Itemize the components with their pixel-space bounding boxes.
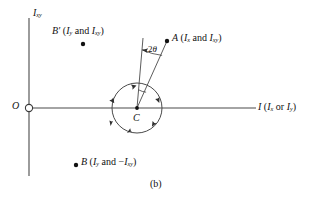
point-b-prime-label: B′ (Iy and Ixy): [52, 26, 104, 37]
point-a-term1-sub: x: [187, 36, 190, 43]
figure-caption-text: (b): [150, 178, 162, 189]
point-a-name: A: [172, 32, 178, 43]
axis-label-term1-sub: x: [271, 105, 274, 112]
axis-label-horizontal: I (Ix or Iy): [258, 102, 296, 113]
point-b-conjunction: and: [102, 156, 116, 167]
point-a-label: A (Ix and Ixy): [172, 33, 222, 44]
rotation-arrowheads-icon: [109, 84, 159, 133]
point-a-conjunction: and: [193, 32, 207, 43]
point-b-label: B (Iy and −Ixy): [81, 157, 136, 168]
point-b-prime-paren-close: ): [101, 25, 104, 36]
axis-label-vertical: Ixy: [33, 8, 42, 19]
center-c-marker: [135, 106, 139, 110]
point-b-term1-sub: y: [96, 160, 99, 167]
origin-label-text: O: [12, 100, 19, 111]
point-b-prime-name: B′: [52, 25, 60, 36]
point-a-paren-close: ): [218, 32, 221, 43]
axis-label-horizontal-main: I: [258, 101, 261, 112]
point-b-paren-close: ): [133, 156, 136, 167]
figure-container: Ixy I (Ix or Iy) O A (Ix and Ixy) B′ (Iy…: [0, 0, 321, 200]
angle-label-symbol: θ: [153, 44, 157, 54]
point-a-marker: [165, 39, 169, 43]
point-b-marker: [74, 163, 78, 167]
point-b-prime-conjunction: and: [75, 25, 89, 36]
point-b-prime-marker: [81, 42, 85, 46]
figure-caption: (b): [150, 179, 162, 189]
mohrs-circle-diagram: [0, 0, 321, 200]
point-b-prime-term1-sub: y: [69, 29, 72, 36]
axis-label-conjunction: or: [276, 101, 284, 112]
origin-label: O: [12, 101, 19, 111]
angle-label-2theta: 2θ: [148, 45, 157, 54]
center-label-text: C: [133, 112, 140, 123]
axis-label-paren-close: ): [293, 101, 296, 112]
axis-label-vertical-sub: xy: [36, 11, 42, 18]
angle-label-leader: [143, 50, 147, 51]
point-b-name: B: [81, 156, 87, 167]
center-label: C: [133, 113, 140, 123]
origin-marker-icon: [25, 104, 32, 111]
